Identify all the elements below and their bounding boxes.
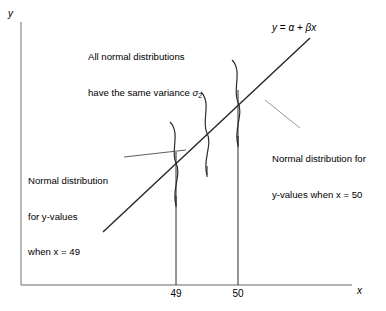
equation-equals: = <box>277 22 288 33</box>
regression-equation-label: y = α + βx <box>272 22 316 34</box>
variance-note-line1: All normal distributions <box>88 51 202 63</box>
sigma-subscript: 2 <box>198 92 202 99</box>
left-annotation: Normal distribution for y-values when x … <box>28 152 108 281</box>
left-annotation-line2: for y-values <box>28 211 108 223</box>
equation-plus: + <box>294 22 305 33</box>
normal-curve-x49 <box>170 122 178 205</box>
left-annotation-leader <box>124 150 186 157</box>
right-annotation-line1: Normal distribution for <box>272 153 366 165</box>
regression-normal-distributions-figure: y x 49 50 All normal distributions have … <box>0 0 386 311</box>
variance-note-line2: have the same variance σ2 <box>88 87 202 99</box>
equation-x: x <box>311 22 316 33</box>
tick-label-49: 49 <box>166 288 186 300</box>
x-axis-label: x <box>357 285 362 297</box>
tick-label-50: 50 <box>228 288 248 300</box>
variance-note-line2-prefix: have the same variance <box>88 87 193 98</box>
right-annotation: Normal distribution for y-values when x … <box>272 130 366 224</box>
right-annotation-line2: y-values when x = 50 <box>272 189 366 201</box>
normal-curve-x50 <box>232 60 240 145</box>
left-annotation-line3: when x = 49 <box>28 246 108 258</box>
right-annotation-leader <box>265 100 300 128</box>
variance-note: All normal distributions have the same v… <box>88 28 202 122</box>
y-axis-label: y <box>8 8 13 20</box>
left-annotation-line1: Normal distribution <box>28 175 108 187</box>
